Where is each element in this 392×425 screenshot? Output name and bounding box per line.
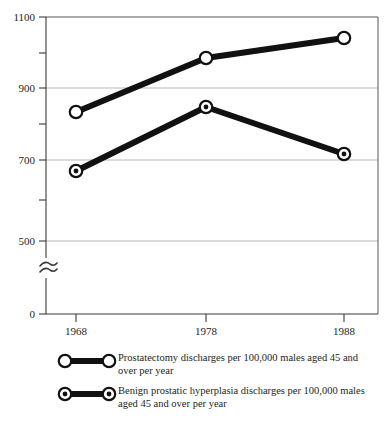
legend-label-prostatectomy: Prostatectomy discharges per 100,000 mal… [118, 352, 390, 377]
y-tick-label-900: 900 [19, 82, 36, 94]
y-tick-label-500: 500 [19, 235, 36, 247]
legend-item-bph: Benign prostatic hyperplasia discharges … [0, 385, 392, 410]
series-bph-line [76, 107, 344, 171]
dot-circle-line-icon [57, 386, 117, 402]
x-tick-label-1968: 1968 [65, 325, 88, 337]
legend-item-prostatectomy: Prostatectomy discharges per 100,000 mal… [0, 352, 392, 377]
y-tick-label-1100: 1100 [13, 11, 35, 23]
x-axis-ticks [76, 314, 344, 322]
legend-label-bph: Benign prostatic hyperplasia discharges … [118, 385, 390, 410]
x-tick-label-1988: 1988 [333, 325, 356, 337]
y-tick-label-700: 700 [19, 154, 36, 166]
figure: 1100 900 700 500 0 1968 1978 1988 [0, 0, 392, 425]
series-bph [70, 101, 350, 177]
legend-label-prostatectomy-line2: over per year [118, 365, 390, 378]
y-axis-break-icon [40, 262, 57, 272]
line-chart: 1100 900 700 500 0 1968 1978 1988 [0, 0, 392, 340]
chart-legend: Prostatectomy discharges per 100,000 mal… [0, 348, 392, 425]
legend-label-bph-line2: aged 45 and over per year [118, 398, 390, 411]
open-circle-line-icon [57, 353, 117, 369]
y-axis-minor-ticks [39, 53, 46, 200]
legend-label-prostatectomy-line1: Prostatectomy discharges per 100,000 mal… [118, 352, 390, 365]
chart-plot-area: 1100 900 700 500 0 1968 1978 1988 [0, 0, 392, 340]
legend-label-bph-line1: Benign prostatic hyperplasia discharges … [118, 385, 390, 398]
y-tick-label-0: 0 [30, 308, 36, 320]
x-tick-label-1978: 1978 [195, 325, 218, 337]
